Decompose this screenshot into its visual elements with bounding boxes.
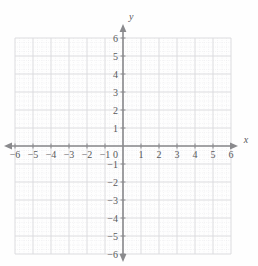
coordinate-grid-svg: −6−5−4−3−2−1123456654321−1−2−3−4−5−60 xy <box>0 0 258 266</box>
y-tick-label-neg4: −4 <box>107 213 118 224</box>
x-tick-label-3: 3 <box>175 149 180 160</box>
y-tick-label-neg5: −5 <box>107 231 118 242</box>
x-tick-label-1: 1 <box>139 149 144 160</box>
x-tick-label-4: 4 <box>193 149 198 160</box>
x-tick-label-neg2: −2 <box>82 149 93 160</box>
y-tick-label-neg6: −6 <box>107 249 118 260</box>
y-axis-name-label: y <box>128 11 134 22</box>
x-tick-label-2: 2 <box>157 149 162 160</box>
x-tick-label-neg4: −4 <box>46 149 57 160</box>
y-tick-label-neg1: −1 <box>107 159 118 170</box>
x-tick-label-neg3: −3 <box>64 149 75 160</box>
x-tick-label-neg6: −6 <box>10 149 21 160</box>
x-tick-label-neg5: −5 <box>28 149 39 160</box>
axes <box>4 24 238 262</box>
y-tick-label-6: 6 <box>113 33 118 44</box>
origin-label: 0 <box>113 149 118 160</box>
y-tick-label-2: 2 <box>113 105 118 116</box>
y-tick-label-5: 5 <box>113 51 118 62</box>
y-tick-label-1: 1 <box>113 123 118 134</box>
y-tick-label-3: 3 <box>113 87 118 98</box>
y-tick-label-neg2: −2 <box>107 177 118 188</box>
x-tick-label-6: 6 <box>229 149 234 160</box>
x-axis-name-label: x <box>243 134 249 145</box>
coordinate-plane-figure: −6−5−4−3−2−1123456654321−1−2−3−4−5−60 xy <box>0 0 258 266</box>
x-tick-label-5: 5 <box>211 149 216 160</box>
y-tick-label-neg3: −3 <box>107 195 118 206</box>
y-tick-label-4: 4 <box>113 69 118 80</box>
